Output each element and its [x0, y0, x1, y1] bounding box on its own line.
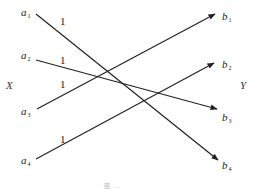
node-b2-sub: 2 — [229, 65, 232, 71]
node-b2: b2 — [222, 59, 232, 74]
node-a3: a3 — [21, 106, 31, 121]
node-b3: b3 — [222, 112, 232, 127]
set-label-y: Y — [240, 80, 246, 91]
set-label-x: X — [6, 80, 13, 91]
node-a1-sub: 1 — [28, 13, 31, 19]
edge-weight-a2-b3: 1 — [60, 55, 66, 66]
edge-weight-a3-b1: 1 — [60, 79, 66, 90]
bipartite-diagram: a1 a2 a3 a4 b1 b2 b3 b4 1 1 1 1 X Y 图 … — [0, 0, 254, 189]
node-a3-name: a — [21, 105, 27, 117]
node-b4-sub: 4 — [229, 166, 232, 172]
node-a1-name: a — [21, 6, 27, 18]
node-a2-sub: 2 — [28, 56, 31, 62]
node-a4-sub: 4 — [28, 161, 31, 167]
node-a2-name: a — [21, 49, 27, 61]
node-b2-name: b — [222, 58, 228, 70]
node-b3-sub: 3 — [229, 118, 232, 124]
node-a4: a4 — [21, 155, 31, 170]
node-b1-name: b — [222, 10, 228, 22]
node-b4: b4 — [222, 160, 232, 175]
node-b1: b1 — [222, 11, 232, 26]
edge-weight-a1-b4: 1 — [60, 16, 66, 27]
edges-layer — [0, 0, 254, 189]
node-a2: a2 — [21, 50, 31, 65]
node-b3-name: b — [222, 111, 228, 123]
node-a3-sub: 3 — [28, 112, 31, 118]
node-a1: a1 — [21, 7, 31, 22]
node-a4-name: a — [21, 154, 27, 166]
figure-caption: 图 … — [104, 181, 121, 189]
node-b1-sub: 1 — [229, 17, 232, 23]
node-b4-name: b — [222, 159, 228, 171]
edge-weight-a4-b2: 1 — [60, 134, 66, 145]
